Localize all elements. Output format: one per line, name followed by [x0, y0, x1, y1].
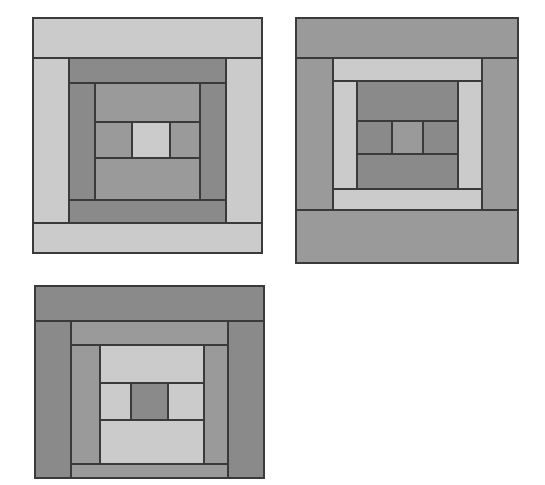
block-top-right-ring2-top-strip [333, 58, 482, 81]
block-top-left-outer-top-strip [33, 18, 262, 58]
block-top-right-ring3-left-strip [357, 121, 392, 154]
block-bottom-left-ring3-top-strip [100, 345, 204, 383]
block-top-left-ring2-bottom-strip [69, 200, 226, 223]
block-bottom-left-outer-left-strip [35, 321, 71, 478]
block-top-left-ring2-top-strip [69, 58, 226, 83]
block-top-left-ring2-right-strip [200, 83, 226, 200]
block-top-right-outer-left-strip [296, 58, 333, 210]
block-bottom-left-ring2-top-strip [71, 321, 228, 345]
block-top-right-ring3-bottom-strip [357, 154, 458, 189]
block-bottom-left-ring2-bottom-strip [71, 464, 228, 478]
block-top-left-center-square [132, 122, 170, 158]
quilt-diagram-canvas [0, 0, 545, 485]
block-bottom-left-ring3-right-strip [168, 383, 204, 420]
block-bottom-left-center-square [131, 383, 168, 420]
block-top-right-ring2-bottom-strip [333, 189, 482, 210]
block-top-left-outer-bottom-strip [33, 223, 262, 253]
block-top-right-ring3-right-strip [423, 121, 458, 154]
block-bottom-left[interactable] [35, 286, 264, 478]
block-top-left-ring3-top-strip [95, 83, 200, 122]
block-top-right-outer-right-strip [482, 58, 518, 210]
block-top-right-ring2-left-strip [333, 81, 357, 189]
block-top-right[interactable] [296, 18, 518, 263]
block-bottom-left-ring2-right-strip [204, 345, 228, 464]
block-top-right-outer-top-strip [296, 18, 518, 58]
block-bottom-left-outer-top-strip [35, 286, 264, 321]
block-top-right-outer-bottom-strip [296, 210, 518, 263]
block-top-left[interactable] [33, 18, 262, 253]
block-top-left-ring3-bottom-strip [95, 158, 200, 200]
block-bottom-left-ring2-left-strip [71, 345, 100, 464]
block-top-left-ring3-right-strip [170, 122, 200, 158]
block-bottom-left-ring3-bottom-strip [100, 420, 204, 464]
block-bottom-left-outer-right-strip [228, 321, 264, 478]
block-top-right-ring2-right-strip [458, 81, 482, 189]
block-top-left-ring2-left-strip [69, 83, 95, 200]
block-top-right-center-square [392, 121, 423, 154]
block-top-left-outer-right-strip [226, 58, 262, 223]
block-top-left-outer-left-strip [33, 58, 69, 223]
block-bottom-left-ring3-left-strip [100, 383, 131, 420]
block-top-left-ring3-left-strip [95, 122, 132, 158]
block-top-right-ring3-top-strip [357, 81, 458, 121]
